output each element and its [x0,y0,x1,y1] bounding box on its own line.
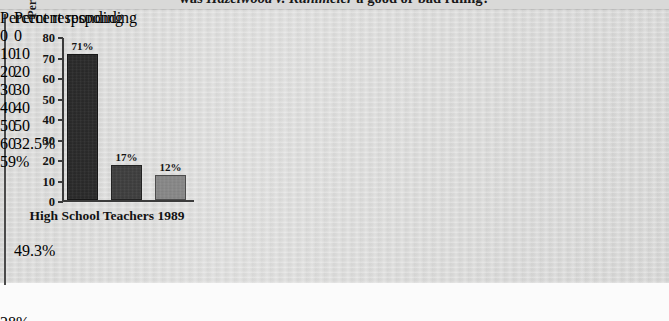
plot-area: 010203040506059%28%13% [0,27,123,321]
y-axis-tick-label: 10 [0,45,123,63]
figure-root: was Hazelwood v. Kuhlmeier a good or bad… [0,0,669,321]
y-axis-label: Percent responding [0,9,123,27]
y-axis-tick-label: 50 [0,117,123,135]
bar[interactable]: 59% [0,153,123,314]
bar[interactable]: 28% [0,314,123,321]
y-axis-tick-label: 60 [0,135,123,153]
chart-2: Percent responding010203040506059%28%13%… [0,9,123,224]
y-axis-tick-label: 0 [0,27,123,45]
charts-row: Percent responding0102030405032.5%49.3%1… [0,9,669,224]
y-axis-tick-label: 30 [0,81,123,99]
bar-value-label: 59% [0,153,123,171]
bar-value-label: 12% [160,161,182,173]
y-axis-tick-label: 40 [0,99,123,117]
bar-fill [155,175,186,200]
figure-title-case-name: Hazelwood v. Kuhlmeier [206,0,352,6]
figure-title-prefix: was [179,0,206,6]
y-axis-tick-label: 20 [0,63,123,81]
bar[interactable]: 12% [155,175,186,200]
bar-value-label: 28% [0,314,123,321]
figure-title-text: was Hazelwood v. Kuhlmeier a good or bad… [0,0,669,7]
figure-title-suffix: a good or bad ruling? [353,0,490,6]
figure-title-clipped: was Hazelwood v. Kuhlmeier a good or bad… [0,0,669,9]
